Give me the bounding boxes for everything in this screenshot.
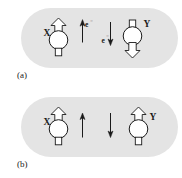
panel-b-background: [21, 97, 178, 157]
panel-b: X Y: [21, 97, 178, 157]
panel-b-caption: (b): [17, 159, 28, 169]
electron-charge-superscript: ⁻: [106, 34, 109, 40]
panel-a: X e ⁻ e ⁻: [21, 8, 178, 68]
atom-label-y: Y: [144, 19, 151, 29]
atom-label-x: X: [44, 117, 51, 127]
figure-container: X e ⁻ e ⁻: [0, 0, 182, 178]
hollow-rectangle-icon: [55, 137, 61, 145]
spin-tunneling-diagram: X e ⁻ e ⁻: [0, 0, 182, 178]
hollow-rectangle-icon: [135, 137, 141, 145]
atom-circle: [49, 120, 68, 139]
atom-label-x: X: [44, 28, 51, 38]
atom-circle: [49, 31, 68, 50]
panel-a-background: [21, 8, 178, 68]
electron-charge-superscript: ⁻: [90, 19, 93, 25]
hollow-rectangle-icon: [55, 48, 61, 56]
atom-circle: [129, 120, 148, 139]
panel-a-caption: (a): [17, 70, 27, 80]
atom-label-y: Y: [150, 112, 157, 122]
